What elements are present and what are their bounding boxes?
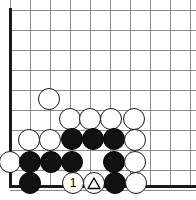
go-board-diagram: 1	[0, 0, 196, 200]
stone-black	[40, 151, 62, 173]
stone-black	[103, 151, 125, 173]
grid-line-vertical-8	[170, 0, 171, 186]
stone-white	[0, 151, 21, 173]
stone-black	[61, 151, 83, 173]
grid-line-horizontal-4	[10, 90, 196, 91]
stone-white	[125, 172, 147, 194]
grid-line-horizontal-1	[10, 30, 196, 31]
stone-black	[19, 151, 41, 173]
grid-line-vertical-4	[90, 0, 91, 186]
stone-white	[124, 151, 146, 173]
stone-black	[104, 172, 126, 194]
stone-black	[82, 128, 104, 150]
stone-white	[79, 108, 101, 130]
grid-line-vertical-9	[190, 0, 191, 186]
move-number-label: 1	[70, 177, 77, 189]
grid-line-horizontal-6	[10, 130, 196, 131]
grid-line-horizontal-7	[10, 150, 196, 151]
stone-white	[18, 129, 40, 151]
stone-white	[38, 88, 60, 110]
stone-white	[123, 108, 145, 130]
grid-line-vertical-7	[150, 0, 151, 186]
grid-line-horizontal-2	[10, 50, 196, 51]
triangle-mark-icon	[87, 177, 101, 190]
stone-white-number: 1	[62, 172, 84, 194]
stone-white	[100, 108, 122, 130]
stone-black	[19, 172, 41, 194]
stone-black	[103, 128, 125, 150]
grid-line-horizontal-3	[10, 70, 196, 71]
stone-white	[59, 108, 81, 130]
grid-line-horizontal-8	[10, 170, 196, 171]
stone-white-triangle	[83, 172, 105, 194]
stone-black	[61, 128, 83, 150]
grid-line-horizontal-0	[10, 10, 196, 11]
stone-white	[39, 129, 61, 151]
stone-white	[124, 129, 146, 151]
